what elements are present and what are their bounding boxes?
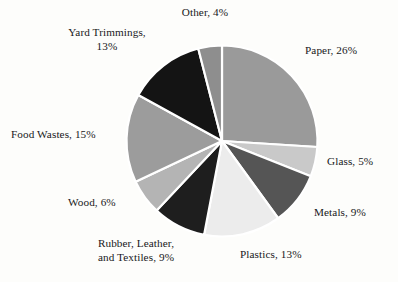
pie-label-wood: Wood, 6%: [68, 196, 158, 210]
pie-label-glass: Glass, 5%: [327, 155, 397, 169]
pie-label-plastics: Plastics, 13%: [240, 248, 336, 262]
pie-label-metals: Metals, 9%: [314, 206, 396, 220]
pie-slice: [222, 46, 317, 148]
pie-chart: Other, 4% Yard Trimmings, 13% Paper, 26%…: [0, 0, 398, 282]
pie-label-rubber-leather-textiles: Rubber, Leather, and Textiles, 9%: [74, 237, 198, 264]
pie-label-other: Other, 4%: [149, 6, 261, 20]
pie-label-paper: Paper, 26%: [305, 44, 395, 58]
pie-label-food-wastes: Food Wastes, 15%: [11, 128, 129, 142]
pie-label-yard-trimmings: Yard Trimmings, 13%: [48, 26, 166, 53]
